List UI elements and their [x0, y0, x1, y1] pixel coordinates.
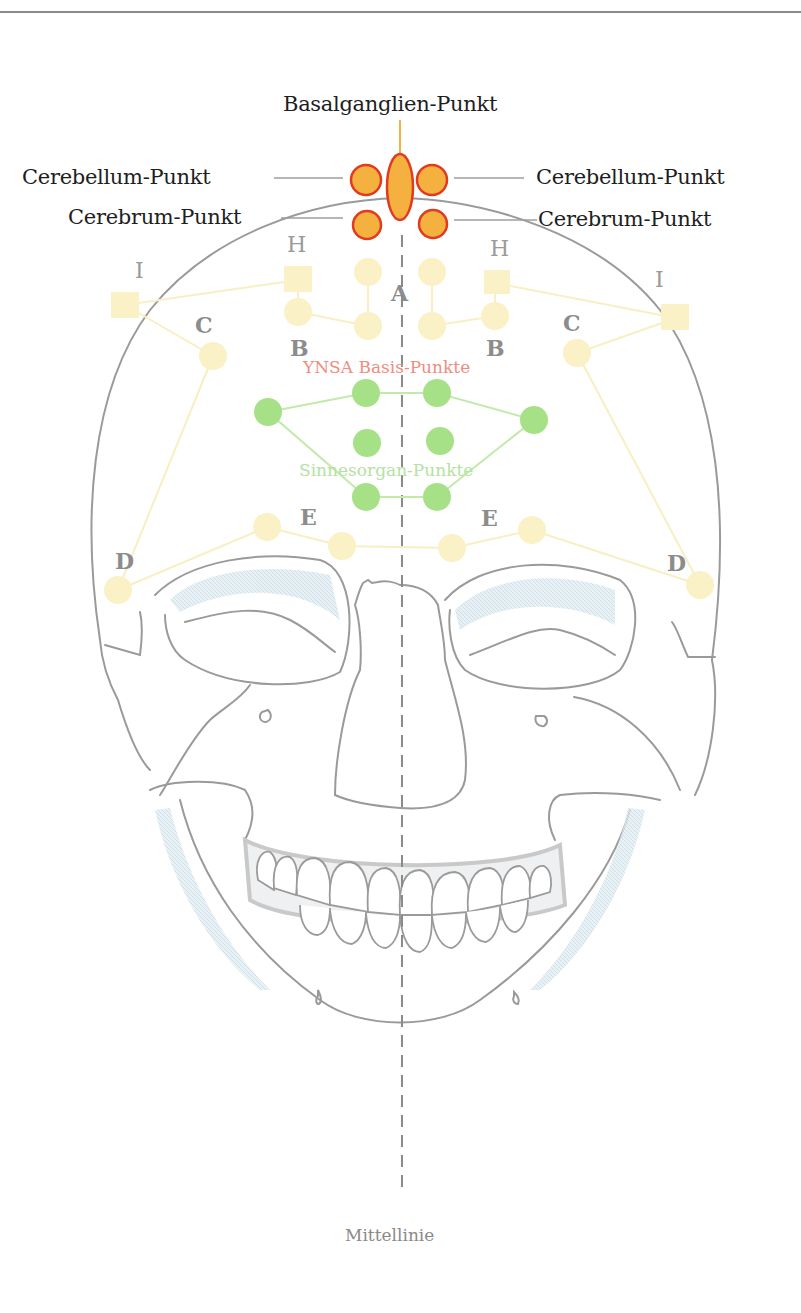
point-H-right	[484, 270, 510, 294]
point-I-right	[661, 304, 689, 330]
point-E-outer-left	[253, 513, 281, 541]
letter-E-left: E	[300, 504, 317, 530]
teeth	[245, 840, 565, 952]
point-B-right	[481, 302, 509, 330]
point-A-lower-right	[418, 312, 446, 340]
point-C-right	[563, 339, 591, 367]
point-A-upper-right	[418, 258, 446, 286]
cerebellum-label-left: Cerebellum-Punkt	[22, 165, 210, 189]
point-B-left	[284, 298, 312, 326]
point-E-inner-left	[328, 532, 356, 560]
midline-label: Mittellinie	[345, 1225, 434, 1245]
point-E-inner-right	[438, 534, 466, 562]
ynsa-basis-points	[104, 258, 714, 604]
cerebrum-point-right	[419, 210, 447, 238]
cerebrum-label-right: Cerebrum-Punkt	[538, 207, 711, 231]
basalganglien-label: Basalganglien-Punkt	[283, 92, 497, 116]
cerebrum-point-left	[353, 211, 381, 239]
letter-H-right: H	[490, 236, 509, 261]
letter-C-left: C	[195, 312, 213, 338]
basalganglien-point	[387, 154, 413, 220]
ynsa-skull-diagram	[0, 0, 801, 1313]
sinnesorgan-label: Sinnesorgan-Punkte	[299, 460, 473, 480]
letter-H-left: H	[287, 232, 306, 257]
letter-I-right: I	[655, 267, 664, 292]
letter-B-right: B	[486, 335, 505, 361]
point-D-left	[104, 576, 132, 604]
letter-C-right: C	[563, 310, 581, 336]
brain-points	[351, 154, 447, 239]
point-C-left	[199, 342, 227, 370]
ynsa-basis-label: YNSA Basis-Punkte	[303, 357, 470, 377]
point-A-lower-left	[354, 312, 382, 340]
letter-E-right: E	[481, 505, 498, 531]
letter-D-right: D	[667, 550, 686, 576]
cerebellum-point-left	[351, 165, 381, 195]
point-D-right	[686, 571, 714, 599]
cerebrum-label-left: Cerebrum-Punkt	[68, 205, 241, 229]
cerebellum-point-right	[417, 165, 447, 195]
point-H-left	[284, 266, 312, 292]
point-A-upper-left	[354, 258, 382, 286]
letter-D-left: D	[115, 548, 134, 574]
point-I-left	[111, 292, 139, 318]
cerebellum-label-right: Cerebellum-Punkt	[536, 165, 724, 189]
letter-I-left: I	[135, 258, 144, 283]
letter-A: A	[391, 280, 408, 306]
point-E-outer-right	[518, 516, 546, 544]
